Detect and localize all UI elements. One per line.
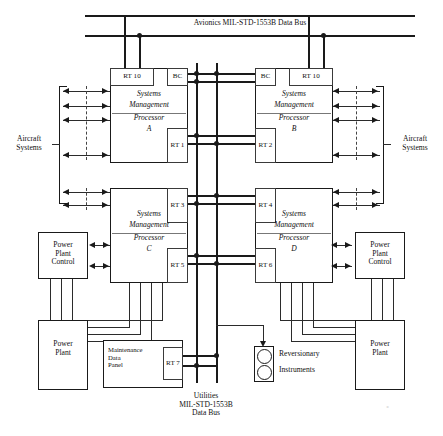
ppc-left-io-1-arrow-in bbox=[89, 242, 95, 248]
avionics-stub-dot-left bbox=[137, 33, 142, 38]
ppl-harness-3-v bbox=[151, 283, 152, 342]
as-right-io-5-arrow-out bbox=[372, 189, 378, 195]
as-right-io-1-arrow-in bbox=[333, 88, 339, 94]
power-plant-control-left-label: Power Plant Control bbox=[38, 241, 88, 267]
ppr-harness-1-h bbox=[313, 327, 355, 328]
ppc-left-io-2-arrow-out bbox=[103, 263, 109, 269]
ppr-harness-3-v bbox=[291, 283, 292, 342]
processor-a-title-line2: Management bbox=[110, 101, 188, 109]
ppc-right-io-2-arrow-in bbox=[331, 263, 337, 269]
link-b-rt2-bus-2 bbox=[196, 143, 255, 145]
maintenance-panel-terminal-rt7: RT 7 bbox=[163, 347, 183, 380]
as-right-io-6-arrow-out bbox=[372, 202, 378, 208]
ppr-link-2 bbox=[382, 279, 383, 320]
processor-a-title-line4: A bbox=[110, 125, 188, 133]
as-right-io-1-arrow-out bbox=[372, 88, 378, 94]
ppl-link-2 bbox=[61, 279, 62, 320]
processor-c-title-line4: C bbox=[110, 245, 188, 253]
as-right-io-2-arrow-in bbox=[333, 103, 339, 109]
processor-b-terminal-bc: BC bbox=[255, 68, 276, 86]
tap-b-bc bbox=[194, 79, 199, 84]
as-left-io-2-arrow-out bbox=[102, 103, 108, 109]
processor-d-terminal-rt6: RT 6 bbox=[255, 248, 276, 283]
aircraft-systems-left-tick bbox=[52, 144, 60, 145]
reversionary-feed-v bbox=[263, 325, 264, 342]
power-plant-right-label: Power Plant bbox=[355, 340, 405, 357]
link-d-rt4-bus-2 bbox=[196, 203, 255, 205]
as-left-io-4-arrow-in bbox=[63, 152, 69, 158]
avionics-bus-label: Avionics MIL-STD-1553B Data Bus bbox=[115, 19, 385, 28]
system-architecture-diagram: Avionics MIL-STD-1553B Data Bus RT 10 BC… bbox=[0, 0, 443, 436]
ppl-link-1 bbox=[50, 279, 51, 320]
as-left-io-3-arrow-in bbox=[63, 117, 69, 123]
ppr-harness-4-v bbox=[280, 283, 281, 321]
reversionary-feed-h bbox=[216, 325, 264, 326]
processor-c-terminal-rt5: RT 5 bbox=[167, 248, 188, 283]
avionics-bus-rail-bottom bbox=[85, 35, 415, 37]
ppr-link-1 bbox=[371, 279, 372, 320]
watermark: • bbox=[386, 402, 389, 412]
utilities-bus-rail-right bbox=[216, 63, 218, 383]
as-left-io-6-arrow-out bbox=[102, 202, 108, 208]
processor-d-title-line2: Management bbox=[255, 221, 333, 229]
processor-b-terminal-rt10: RT 10 bbox=[289, 68, 333, 86]
as-right-io-5-arrow-in bbox=[333, 189, 339, 195]
as-right-io-3-arrow-in bbox=[333, 117, 339, 123]
as-left-io-4-arrow-out bbox=[102, 152, 108, 158]
link-c-rt5-bus-1 bbox=[188, 255, 218, 257]
processor-b-title-line1: Systems bbox=[255, 90, 333, 98]
ppl-harness-4-v bbox=[162, 283, 163, 321]
avionics-stub-dot-right bbox=[321, 33, 326, 38]
as-left-io-5-arrow-in bbox=[63, 189, 69, 195]
reversionary-label-line2: Instruments bbox=[279, 366, 359, 375]
ppc-left-io-1-arrow-out bbox=[103, 242, 109, 248]
ppr-harness-3-h bbox=[291, 341, 355, 342]
avionics-drop-a2 bbox=[139, 35, 141, 68]
ppc-left-io-2-arrow-in bbox=[89, 263, 95, 269]
reversionary-label-line1: Reversionary bbox=[279, 350, 359, 359]
link-d-rt6-bus-1 bbox=[216, 255, 255, 257]
ppr-harness-2-h bbox=[302, 334, 355, 335]
as-right-io-3-arrow-out bbox=[372, 117, 378, 123]
ppc-right-io-1-arrow-out bbox=[345, 242, 351, 248]
tap-a-bc bbox=[194, 71, 199, 76]
tap-rt7-left bbox=[194, 363, 199, 368]
processor-a-terminal-bc: BC bbox=[167, 68, 188, 86]
processor-c-title-line2: Management bbox=[110, 221, 188, 229]
processor-d-title-line3: Processor bbox=[255, 234, 333, 242]
ppl-harness-2-h bbox=[88, 334, 141, 335]
processor-d-title-line1: Systems bbox=[255, 210, 333, 218]
link-b-rt2-bus-1 bbox=[216, 135, 255, 137]
as-right-io-2-arrow-out bbox=[372, 103, 378, 109]
link-a-rt1-bus-1 bbox=[188, 135, 218, 137]
ppr-harness-1-v bbox=[313, 283, 314, 328]
processor-c-title-line1: Systems bbox=[110, 210, 188, 218]
link-d-rt4-bus-1 bbox=[216, 195, 255, 197]
link-b-bc-bus-2 bbox=[196, 81, 255, 83]
maintenance-data-panel-label: Maintenance Data Panel bbox=[108, 346, 168, 369]
as-left-dashed-divider-bottom bbox=[86, 188, 87, 210]
utilities-bus-rail-left bbox=[196, 63, 198, 383]
ppl-link-3 bbox=[72, 279, 73, 320]
processor-d-title-line4: D bbox=[255, 245, 333, 253]
power-plant-left-label: Power Plant bbox=[38, 340, 88, 357]
avionics-drop-b1 bbox=[308, 15, 310, 68]
tap-a-rt1 bbox=[194, 133, 199, 138]
processor-b-terminal-rt2: RT 2 bbox=[255, 128, 276, 163]
tap-c-rt5 bbox=[194, 253, 199, 258]
reversionary-indicator-2 bbox=[257, 365, 272, 380]
link-d-rt6-bus-2 bbox=[196, 263, 255, 265]
processor-c-title-line3: Processor bbox=[110, 234, 188, 242]
processor-b-title-line2: Management bbox=[255, 101, 333, 109]
ppl-harness-1-v bbox=[129, 283, 130, 328]
ppr-link-3 bbox=[393, 279, 394, 320]
processor-b-title-line4: B bbox=[255, 125, 333, 133]
processor-a-title-line1: Systems bbox=[110, 90, 188, 98]
link-b-bc-bus-1 bbox=[216, 73, 255, 75]
ppl-harness-4-h bbox=[88, 320, 163, 321]
ppc-right-io-1-arrow-in bbox=[331, 242, 337, 248]
aircraft-systems-left-label: Aircraft Systems bbox=[6, 135, 52, 152]
link-rt7-bus-1 bbox=[183, 355, 218, 357]
as-right-io-6-arrow-in bbox=[333, 202, 339, 208]
tap-rt7-right bbox=[214, 353, 219, 358]
